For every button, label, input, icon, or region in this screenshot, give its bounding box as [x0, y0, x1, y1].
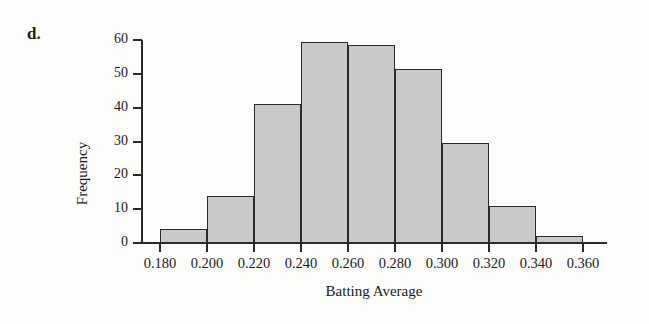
y-axis-tick-label-wrap: 0 — [100, 235, 128, 249]
x-axis-tick — [347, 243, 349, 252]
x-axis-tick — [159, 243, 161, 252]
x-axis-tick-label: 0.360 — [553, 256, 613, 272]
x-axis-tick — [441, 243, 443, 252]
histogram-bar — [254, 104, 301, 244]
x-axis-tick — [488, 243, 490, 252]
y-axis-tick-label-wrap: 60 — [100, 32, 128, 46]
histogram-bar — [442, 143, 489, 244]
y-axis-tick-label: 60 — [102, 32, 128, 46]
y-axis-title-holder: Frequency — [0, 60, 170, 230]
histogram-figure: d. 0102030405060 0.1800.2000.2200.2400.2… — [0, 0, 649, 324]
histogram-bar — [489, 206, 536, 244]
plot-area: 0102030405060 0.1800.2000.2200.2400.2600… — [0, 0, 649, 324]
x-axis-line — [141, 242, 607, 244]
y-axis-title: Frequency — [74, 89, 91, 259]
x-axis-tick — [253, 243, 255, 252]
x-axis-tick — [394, 243, 396, 252]
x-axis-tick — [535, 243, 537, 252]
y-axis-tick — [133, 242, 142, 244]
x-axis-title: Batting Average — [141, 283, 607, 300]
x-axis-tick — [206, 243, 208, 252]
histogram-bar — [301, 42, 348, 244]
y-axis-tick — [133, 39, 142, 41]
histogram-bar — [348, 45, 395, 244]
histogram-bar — [395, 69, 442, 244]
y-axis-tick-label: 0 — [102, 235, 128, 249]
x-axis-tick — [582, 243, 584, 252]
x-axis-tick — [300, 243, 302, 252]
histogram-bar — [207, 196, 254, 244]
